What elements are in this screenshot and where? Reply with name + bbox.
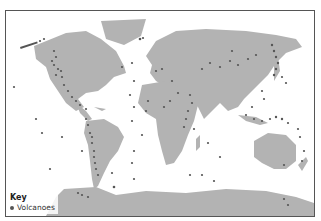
new-zealand <box>298 157 308 171</box>
caribbean <box>94 107 106 111</box>
map-legend: Key Volcanoes <box>8 192 58 214</box>
greenland <box>101 19 146 45</box>
legend-item-label: Volcanoes <box>17 203 55 212</box>
north-america <box>34 31 126 111</box>
central-america <box>76 103 92 121</box>
south-america <box>84 119 124 189</box>
madagascar <box>196 135 200 151</box>
map-frame: Key Volcanoes <box>5 10 315 217</box>
australia <box>254 133 296 169</box>
legend-title: Key <box>10 193 55 203</box>
indonesia <box>238 115 268 125</box>
world-map <box>6 11 314 216</box>
antarctica <box>46 187 314 216</box>
volcano-dot-icon <box>10 206 14 210</box>
legend-item-volcanoes: Volcanoes <box>10 203 55 212</box>
